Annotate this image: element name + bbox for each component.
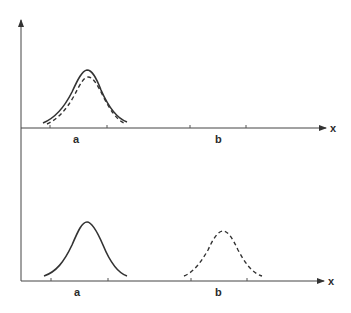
diagram-canvas: a b x a b x: [0, 0, 351, 313]
bottom-dashed-curve: [184, 231, 262, 276]
bottom-label-x: x: [328, 275, 335, 287]
top-label-b: b: [215, 133, 222, 145]
bottom-solid-curve: [44, 222, 127, 276]
top-solid-curve: [43, 70, 127, 123]
top-panel: a b x: [21, 70, 337, 145]
top-label-x: x: [330, 122, 337, 134]
bottom-label-b: b: [215, 286, 222, 298]
top-label-a: a: [73, 133, 80, 145]
bottom-label-a: a: [74, 286, 81, 298]
bottom-panel: a b x: [21, 222, 335, 298]
top-dashed-curve: [47, 77, 124, 124]
